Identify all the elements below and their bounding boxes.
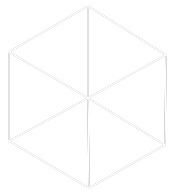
edge-core [9,98,88,141]
edge-core [165,55,166,145]
edge-core [9,6,88,52]
edge-core [9,141,89,188]
edge-core [88,98,89,188]
edge-core [9,52,88,98]
edge-core [88,55,166,98]
edge-core [88,6,166,55]
hexagon-diagram [0,0,170,193]
edges-light-core [9,6,166,188]
edge-core [88,98,165,145]
edge-core [89,145,165,188]
